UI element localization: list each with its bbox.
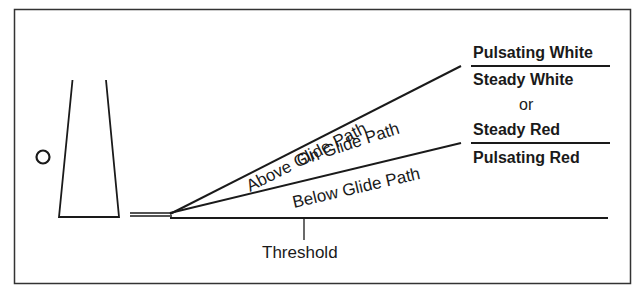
glide-path-diagram: Above Glide Path On Glide Path Below Gli…: [0, 0, 635, 298]
or-label: or: [519, 96, 534, 113]
steady-red-label: Steady Red: [473, 121, 560, 138]
pulsating-red-label: Pulsating Red: [473, 149, 580, 166]
below-glide-path-label: Below Glide Path: [291, 164, 422, 212]
light-source-icon: [37, 151, 50, 164]
pulsating-white-label: Pulsating White: [473, 44, 593, 61]
steady-white-label: Steady White: [473, 71, 574, 88]
light-unit-housing: [59, 80, 119, 217]
threshold-label: Threshold: [262, 243, 338, 262]
